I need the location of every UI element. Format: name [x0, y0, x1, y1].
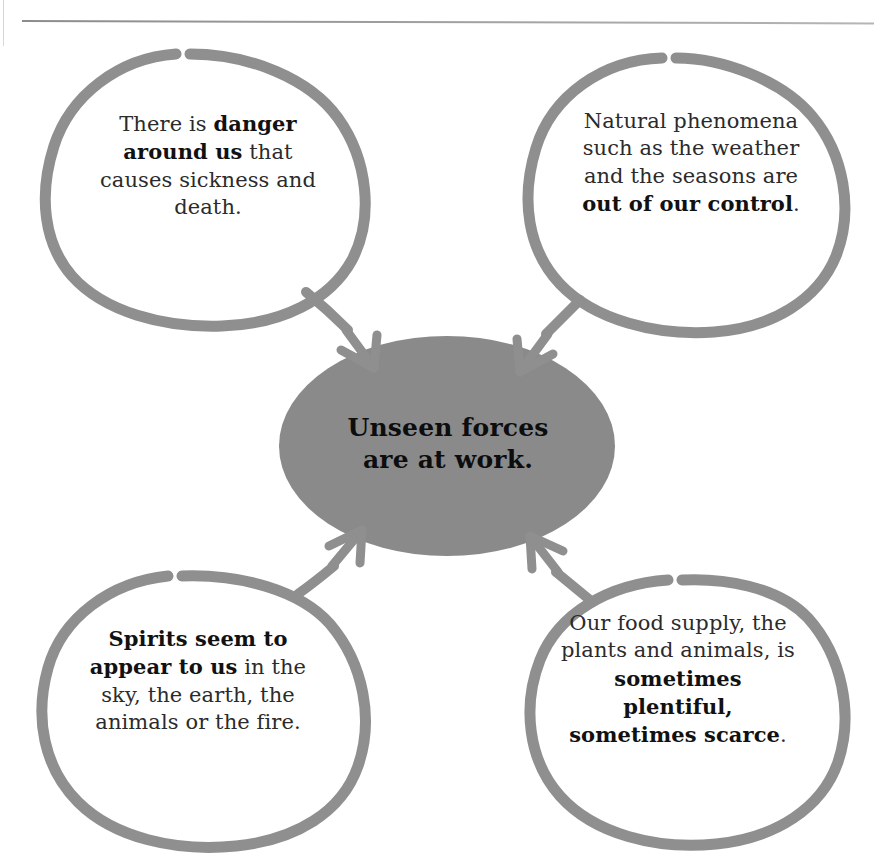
- center-line-1: Unseen forces: [288, 412, 608, 444]
- bubble-text-top-right: Natural phenomena such as the weather an…: [570, 108, 812, 218]
- run-plain: There is: [119, 112, 213, 136]
- bubble-text-bottom-right: Our food supply, the plants and animals,…: [558, 610, 798, 749]
- run-plain: Our food supply, the plants and animals,…: [561, 611, 795, 662]
- center-ellipse-text: Unseen forces are at work.: [288, 412, 608, 475]
- diagram-page: There is danger around us that causes si…: [0, 0, 888, 859]
- run-bold: sometimes plentiful, sometimes scarce: [569, 666, 780, 748]
- run-plain: Natural phenomena such as the weather an…: [583, 109, 800, 188]
- arrow-bottom-left-to-center: [329, 530, 362, 566]
- run-plain: .: [780, 723, 787, 747]
- center-line-2: are at work.: [288, 444, 608, 476]
- run-bold: out of our control: [582, 191, 793, 216]
- arrow-bottom-right-to-center: [530, 536, 563, 572]
- bubble-text-bottom-left: Spirits seem to appear to us in the sky,…: [70, 625, 326, 736]
- bubble-text-top-left: There is danger around us that causes si…: [92, 110, 324, 221]
- run-plain: .: [793, 192, 800, 216]
